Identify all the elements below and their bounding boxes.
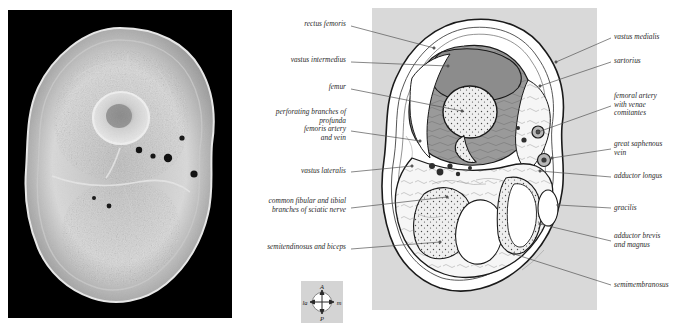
label-vastus-medialis: vastus medialis [614, 33, 690, 42]
schematic-drawing [372, 8, 597, 310]
label-great-saphenous-vein: great saphenous vein [614, 140, 690, 157]
label-femoral-artery: femoral artery with venae comitantes [614, 92, 690, 118]
orientation-compass: A P la m [301, 281, 343, 323]
gracilis-muscle [538, 190, 558, 226]
label-vastus-intermedius: vastus intermedius [228, 56, 346, 65]
compass-medial: m [337, 299, 342, 306]
label-perforating-branches: perforating branches of profunda femoris… [228, 108, 346, 142]
label-rectus-femoris: rectus femoris [228, 20, 346, 29]
anatomy-figure: rectus femorisvastus intermediusfemurper… [0, 0, 691, 329]
compass-anterior: A [319, 283, 324, 290]
label-femur: femur [228, 83, 346, 92]
mri-image [8, 10, 232, 318]
label-semitendinosus-biceps: semitendinosus and biceps [228, 243, 346, 252]
label-sartorius: sartorius [614, 57, 690, 66]
compass-lateral: la [303, 299, 308, 306]
femur-shaft [443, 86, 497, 138]
label-common-fibular-tibial: common fibular and tibial branches of sc… [228, 197, 346, 214]
compass-rose: A P la m [301, 281, 343, 323]
biceps-femoris-muscle [456, 200, 503, 264]
label-gracilis: gracilis [614, 204, 690, 213]
mri-panel [8, 10, 232, 318]
label-semimembranosus: semimembranosus [614, 281, 690, 290]
label-adductor-longus: adductor longus [614, 172, 690, 181]
compass-posterior: P [319, 315, 324, 322]
label-adductor-brevis-magnus: adductor brevis and magnus [614, 232, 690, 249]
label-vastus-lateralis: vastus lateralis [228, 167, 346, 176]
diagram-panel [372, 8, 597, 310]
